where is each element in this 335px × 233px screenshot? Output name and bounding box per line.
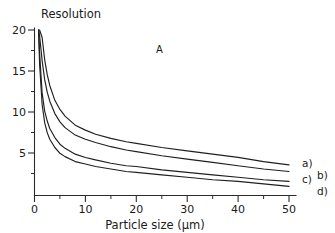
series-label-d: d) [317, 185, 328, 197]
chart-figure: Resolution A 20 15 10 5 [0, 0, 335, 233]
curve-d [39, 30, 289, 186]
series-label-c: c) [302, 173, 312, 185]
x-tick-label-10: 10 [78, 203, 92, 216]
resolution-vs-particle-size-chart: Resolution A 20 15 10 5 [0, 0, 335, 233]
y-tick-label-5: 5 [19, 147, 26, 160]
x-tick-label-30: 30 [180, 203, 194, 216]
series-label-a: a) [302, 157, 313, 169]
x-tick-label-20: 20 [129, 203, 143, 216]
series-label-b: b) [317, 169, 328, 181]
curves-group [39, 30, 289, 186]
curve-c [39, 30, 289, 181]
y-tick-label-10: 10 [12, 106, 26, 119]
curve-b [39, 30, 289, 172]
x-axis-title: Particle size (µm) [105, 218, 205, 232]
y-tick-label-20: 20 [12, 24, 26, 37]
panel-label: A [156, 44, 163, 55]
curve-a [39, 30, 289, 165]
x-tick-label-40: 40 [231, 203, 245, 216]
y-tick-label-15: 15 [12, 65, 26, 78]
x-tick-label-0: 0 [31, 203, 38, 216]
chart-title: Resolution [41, 7, 101, 21]
x-tick-label-50: 50 [282, 203, 296, 216]
